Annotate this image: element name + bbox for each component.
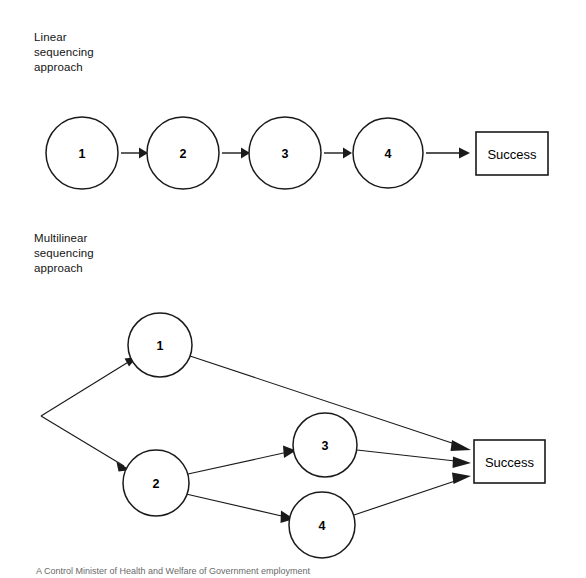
edge-4-to-success: [354, 473, 471, 516]
node-label: 3: [282, 147, 289, 161]
figure-caption: A Control Minister of Health and Welfare…: [36, 566, 560, 578]
edge-2-to-3: [188, 446, 296, 475]
node-label: 2: [180, 147, 187, 161]
edge-4-to-success: [426, 148, 470, 159]
node-label: 4: [385, 147, 392, 161]
multilinear-success-terminal: Success: [474, 440, 545, 483]
terminal-label: Success: [485, 455, 535, 470]
multilinear-node-3: 3: [293, 413, 357, 477]
edge-1-to-2: [121, 148, 148, 159]
arrowhead-icon: [452, 473, 471, 485]
multilinear-node-1: 1: [128, 313, 192, 377]
multilinear-edges: [41, 356, 471, 523]
terminal-label: Success: [487, 147, 537, 162]
arrowhead-icon: [453, 457, 472, 469]
edge-2-to-3: [222, 148, 250, 159]
sequencing-diagrams: 1 2 3 4 Success: [0, 0, 586, 578]
edge-3-to-4: [324, 148, 352, 159]
node-label: 2: [153, 477, 160, 491]
arrowhead-icon: [451, 440, 472, 451]
linear-node-2: 2: [147, 117, 219, 189]
multilinear-sequencing-diagram: 1 2 3 4 Success: [41, 313, 545, 558]
arrowhead-icon: [459, 148, 470, 159]
arrowhead-icon: [343, 148, 352, 159]
linear-success-terminal: Success: [476, 132, 548, 175]
linear-node-1: 1: [46, 117, 118, 189]
multilinear-node-4: 4: [289, 492, 355, 558]
edge-origin-to-2: [41, 416, 131, 472]
node-label: 1: [157, 339, 164, 353]
linear-sequencing-diagram: 1 2 3 4 Success: [46, 117, 548, 189]
node-label: 1: [79, 147, 86, 161]
node-label: 3: [322, 439, 329, 453]
figure-canvas: Linear sequencing approach Multilinear s…: [0, 0, 586, 578]
multilinear-node-2: 2: [123, 450, 189, 516]
edge-3-to-success: [357, 450, 471, 468]
edge-origin-to-1: [41, 357, 137, 416]
linear-node-3: 3: [249, 117, 321, 189]
edge-2-to-4: [186, 494, 294, 523]
linear-node-4: 4: [353, 118, 423, 188]
node-label: 4: [319, 519, 326, 533]
